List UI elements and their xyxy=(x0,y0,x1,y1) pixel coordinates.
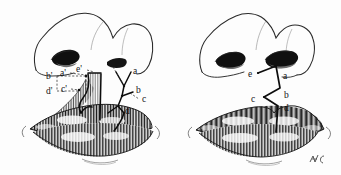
label-b-right: b xyxy=(284,90,289,100)
label-e-right: e xyxy=(248,69,252,79)
label-b-prime: b' xyxy=(46,71,53,81)
label-c-prime: c' xyxy=(61,84,67,94)
label-d-prime: d' xyxy=(46,86,53,96)
label-d: d xyxy=(125,106,130,116)
label-d-right: d xyxy=(284,103,289,113)
illustration-canvas: b' a' e' d' c' e a b c d xyxy=(0,0,341,175)
label-c: c xyxy=(142,94,146,104)
label-e-prime: e' xyxy=(76,64,82,74)
label-a-prime: a' xyxy=(60,68,66,78)
cleft-lip-illustration: b' a' e' d' c' e a b c d xyxy=(0,0,341,175)
label-e: e xyxy=(115,58,119,68)
label-b: b xyxy=(136,85,141,95)
label-c-right: c xyxy=(251,94,255,104)
